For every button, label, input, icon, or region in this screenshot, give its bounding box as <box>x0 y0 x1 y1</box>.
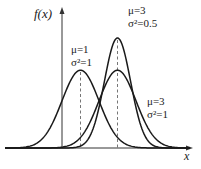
label-curve3-mu: μ=3 <box>147 95 165 107</box>
curve-mu3-var05 <box>5 38 190 148</box>
x-axis-label: x <box>183 149 190 163</box>
label-curve1-mu: μ=1 <box>71 43 89 55</box>
y-axis <box>60 7 65 148</box>
normal-distribution-chart: f(x) x μ=1 σ²=1 μ=3 σ²=0.5 μ=3 σ²=1 <box>0 0 201 169</box>
label-curve3-var: σ²=1 <box>147 108 168 120</box>
label-curve2-mu: μ=3 <box>128 4 146 16</box>
label-curve1-var: σ²=1 <box>71 56 92 68</box>
y-axis-label: f(x) <box>34 6 52 21</box>
label-curve2-var: σ²=0.5 <box>128 17 158 29</box>
y-axis-arrow-icon <box>60 7 65 14</box>
